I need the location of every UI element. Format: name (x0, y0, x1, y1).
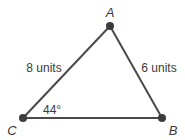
vertex-c-label: C (7, 123, 17, 138)
vertex-a-label: A (105, 5, 115, 20)
side-ab-length-label: 6 units (141, 61, 176, 75)
vertex-b-label: B (169, 123, 178, 138)
angle-c-label: 44° (43, 103, 61, 117)
side-ca-length-label: 8 units (26, 61, 61, 75)
vertex-b-point (158, 114, 166, 122)
vertex-c-point (19, 114, 27, 122)
triangle-diagram: A C B 8 units 6 units 44° (0, 0, 185, 140)
vertex-a-point (106, 22, 114, 30)
